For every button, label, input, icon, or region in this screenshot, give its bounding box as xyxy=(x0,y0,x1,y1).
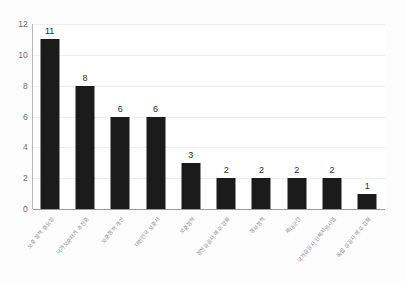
bar xyxy=(111,117,130,210)
y-tick-label: 8 xyxy=(2,81,28,91)
x-axis-labels: 보훈 정책 중요성국가보훈처가 추진중보훈정책 개선대한민국 보훈처보훈정책참전… xyxy=(32,211,385,282)
x-tick: 독립 유공자 예우 강화 xyxy=(350,211,385,282)
x-tick: 정부정책 xyxy=(244,211,279,282)
bar-group: 3 xyxy=(173,24,208,209)
bar xyxy=(40,39,59,209)
bar-group: 2 xyxy=(279,24,314,209)
bar-value-label: 2 xyxy=(294,165,299,175)
x-tick-label: 보훈정책 개선 xyxy=(100,215,127,245)
bar-group: 2 xyxy=(209,24,244,209)
bar-value-label: 6 xyxy=(118,104,123,114)
bar-group: 11 xyxy=(32,24,67,209)
bar-group: 6 xyxy=(138,24,173,209)
y-tick-label: 6 xyxy=(2,112,28,122)
bar-value-label: 11 xyxy=(45,26,54,36)
bar-value-label: 2 xyxy=(259,165,264,175)
x-tick-label: 보훈 정책 중요성 xyxy=(25,215,56,250)
bar xyxy=(181,163,200,209)
x-tick: 대한민국 보훈처 xyxy=(138,211,173,282)
bar xyxy=(217,178,236,209)
bar xyxy=(358,194,377,209)
x-tick: 국가보훈처가 추진중 xyxy=(67,211,102,282)
x-tick-label: 정부정책 xyxy=(248,215,267,236)
bar-group: 6 xyxy=(103,24,138,209)
y-tick-label: 4 xyxy=(2,142,28,152)
bar-value-label: 6 xyxy=(153,104,158,114)
bar-chart: 024681012 11866322221 보훈 정책 중요성국가보훈처가 추진… xyxy=(0,0,406,282)
y-tick-label: 10 xyxy=(2,50,28,60)
x-tick-label: 제대군인 xyxy=(284,215,303,236)
x-tick-label: 보훈정책 xyxy=(178,215,197,236)
x-tick: 참전유공자 예우 강화 xyxy=(209,211,244,282)
bar xyxy=(323,178,342,209)
bar-group: 1 xyxy=(350,24,385,209)
y-tick-label: 0 xyxy=(2,204,28,214)
bar-value-label: 3 xyxy=(188,150,193,160)
bar-group: 2 xyxy=(244,24,279,209)
y-tick-label: 2 xyxy=(2,173,28,183)
bar-value-label: 2 xyxy=(224,165,229,175)
bar-group: 8 xyxy=(67,24,102,209)
bar-value-label: 2 xyxy=(330,165,335,175)
bar xyxy=(75,86,94,209)
bars-layer: 11866322221 xyxy=(32,24,385,209)
y-tick-label: 12 xyxy=(2,19,28,29)
bar xyxy=(287,178,306,209)
gridline xyxy=(33,209,385,210)
bar-group: 2 xyxy=(314,24,349,209)
bar xyxy=(146,117,165,210)
bar-value-label: 8 xyxy=(82,73,87,83)
bar-value-label: 1 xyxy=(365,181,370,191)
x-tick: 보훈정책 개선 xyxy=(103,211,138,282)
bar xyxy=(252,178,271,209)
